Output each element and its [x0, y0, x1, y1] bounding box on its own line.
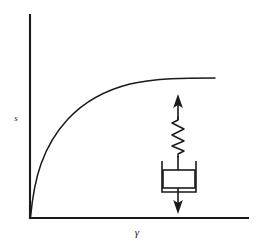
dashpot-element: [162, 161, 196, 192]
figure-root: s γ: [0, 0, 260, 249]
maxwell-element: [162, 94, 196, 214]
stress-strain-curve: [31, 78, 216, 218]
dashpot-piston: [163, 170, 195, 188]
spring-element: [172, 117, 184, 157]
x-axis-label: γ: [135, 226, 140, 238]
spring-coil-path: [172, 117, 184, 157]
y-axis-label: s: [14, 113, 18, 123]
axes-group: [30, 15, 248, 218]
upward-force-arrow: [173, 94, 183, 120]
curve-group: [31, 78, 216, 218]
figure-canvas: s γ: [0, 0, 260, 249]
